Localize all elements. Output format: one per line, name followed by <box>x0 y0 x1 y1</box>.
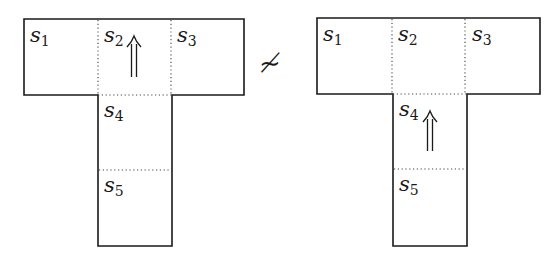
left-label-s1: s1 <box>30 23 50 49</box>
right-label-s3: s3 <box>472 22 492 48</box>
right-label-s1: s1 <box>323 22 343 48</box>
left-double-up-arrow-icon <box>127 36 141 77</box>
right-t-shape: s1 s2 s3 s4 s5 <box>317 18 540 246</box>
left-label-s2: s2 <box>104 23 124 49</box>
diagram-canvas: s1 s2 s3 s4 s5 ≁ s1 s2 s3 s4 s5 <box>0 0 559 264</box>
left-label-s4: s4 <box>104 98 124 124</box>
right-label-s2: s2 <box>398 22 418 48</box>
right-label-s4: s4 <box>399 97 419 123</box>
left-label-s5: s5 <box>104 173 124 199</box>
right-label-s5: s5 <box>399 172 419 198</box>
left-label-s3: s3 <box>177 23 197 49</box>
left-t-shape: s1 s2 s3 s4 s5 <box>24 19 244 246</box>
not-similar-symbol: ≁ <box>259 48 281 78</box>
left-t-outline <box>24 19 244 246</box>
right-double-up-arrow-icon <box>423 111 437 151</box>
right-t-outline <box>317 18 540 246</box>
